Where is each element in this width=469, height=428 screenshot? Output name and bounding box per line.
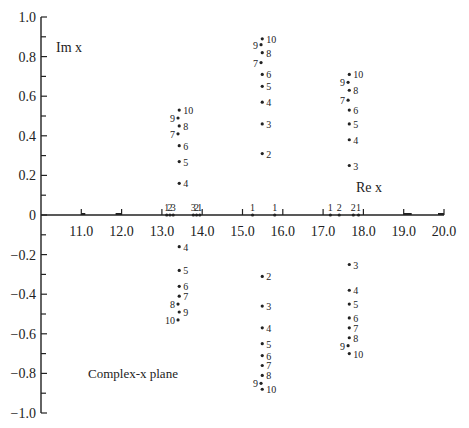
y-tick-label: 0.8 <box>19 50 37 65</box>
data-point <box>261 101 264 104</box>
data-point <box>178 160 181 163</box>
y-tick-label: 0.2 <box>19 168 37 183</box>
data-point <box>259 43 262 46</box>
point-label: 10 <box>266 384 276 395</box>
data-point <box>261 73 264 76</box>
point-label: 2 <box>266 271 271 282</box>
point-label: 9 <box>253 40 258 51</box>
x-tick-label: 11.0 <box>69 224 93 239</box>
point-label: 7 <box>170 129 175 140</box>
data-point <box>178 285 181 288</box>
data-point <box>178 182 181 185</box>
x-tick-label: 19.0 <box>391 224 416 239</box>
point-label: 4 <box>266 97 271 108</box>
data-point <box>261 354 264 357</box>
point-label: 2 <box>337 202 342 213</box>
data-point <box>261 85 264 88</box>
point-label: 1 <box>328 202 333 213</box>
data-point <box>261 326 264 329</box>
data-point <box>261 152 264 155</box>
data-point <box>178 124 181 127</box>
x-tick-label: 17.0 <box>311 224 336 239</box>
point-label: 8 <box>183 121 188 132</box>
data-point <box>176 116 179 119</box>
x-tick-label: 20.0 <box>432 224 457 239</box>
point-label: 9 <box>340 341 345 352</box>
point-label: 5 <box>183 265 188 276</box>
point-label: 3 <box>171 202 176 213</box>
data-point <box>261 51 264 54</box>
data-point <box>259 61 262 64</box>
data-point <box>348 326 351 329</box>
y-tick-label: −0.8 <box>11 366 36 381</box>
data-point <box>259 382 262 385</box>
point-label: 9 <box>170 113 175 124</box>
data-point <box>261 342 264 345</box>
point-label: 2 <box>266 149 271 160</box>
data-point <box>348 164 351 167</box>
x-tick-label: 13.0 <box>150 224 175 239</box>
y-tick-label: 0.4 <box>19 129 37 144</box>
point-label: 5 <box>353 119 358 130</box>
point-label: 8 <box>266 48 271 59</box>
point-label: 8 <box>170 299 175 310</box>
im-axis-label: Im x <box>56 40 82 55</box>
data-point <box>178 144 181 147</box>
data-point <box>261 374 264 377</box>
point-label: 2 <box>351 202 356 213</box>
data-point <box>261 37 264 40</box>
data-point <box>346 99 349 102</box>
data-point <box>329 213 332 216</box>
point-label: 4 <box>353 285 358 296</box>
data-point <box>273 213 276 216</box>
data-point <box>165 213 168 216</box>
point-label: 5 <box>266 81 271 92</box>
data-point <box>348 108 351 111</box>
data-point <box>261 388 264 391</box>
data-point <box>192 213 195 216</box>
point-label: 10 <box>165 315 175 326</box>
point-label: 9 <box>183 307 188 318</box>
point-label: 7 <box>253 58 258 69</box>
point-label: 1 <box>272 202 277 213</box>
data-point <box>261 275 264 278</box>
y-tick-label: −0.2 <box>11 248 36 263</box>
point-label: 8 <box>266 370 271 381</box>
point-label: 4 <box>353 135 358 146</box>
data-point <box>261 364 264 367</box>
plane-annotation: Complex-x plane <box>88 366 178 381</box>
x-tick-label: 16.0 <box>271 224 296 239</box>
x-tick-label: 15.0 <box>230 224 255 239</box>
data-point <box>178 245 181 248</box>
point-label: 10 <box>183 105 193 116</box>
data-point <box>357 213 360 216</box>
data-point <box>348 336 351 339</box>
point-label: 6 <box>183 141 188 152</box>
data-point <box>348 138 351 141</box>
point-label: 3 <box>353 260 358 271</box>
re-axis-label: Re x <box>356 180 382 195</box>
data-point <box>346 81 349 84</box>
data-point <box>348 89 351 92</box>
data-point <box>198 213 201 216</box>
data-point <box>176 318 179 321</box>
point-label: 3 <box>266 301 271 312</box>
data-point <box>348 122 351 125</box>
point-label: 1 <box>197 202 202 213</box>
point-label: 8 <box>353 85 358 96</box>
data-point <box>348 352 351 355</box>
data-point <box>352 213 355 216</box>
y-tick-label: 0.6 <box>19 89 37 104</box>
data-point <box>261 122 264 125</box>
point-label: 9 <box>340 77 345 88</box>
point-label: 4 <box>266 323 271 334</box>
data-point <box>348 316 351 319</box>
point-label: 3 <box>266 119 271 130</box>
data-point <box>348 73 351 76</box>
data-point <box>346 344 349 347</box>
point-label: 1 <box>356 202 361 213</box>
point-label: 10 <box>266 34 276 45</box>
point-label: 7 <box>183 291 188 302</box>
point-label: 6 <box>353 105 358 116</box>
data-point <box>178 295 181 298</box>
